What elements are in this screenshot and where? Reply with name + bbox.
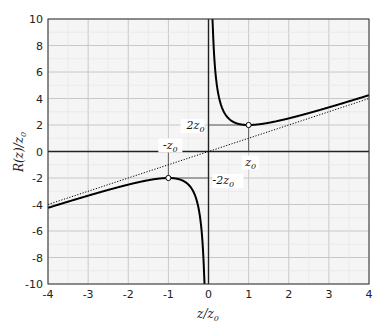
svg-text:-10: -10	[25, 278, 43, 291]
svg-text:6: 6	[36, 66, 43, 79]
svg-text:0: 0	[205, 288, 212, 301]
x-axis-label: z/z0	[196, 307, 219, 323]
svg-text:-4: -4	[43, 288, 54, 301]
svg-text:2: 2	[285, 288, 292, 301]
y-axis-label: R(z)/z0	[12, 132, 28, 173]
svg-text:2: 2	[36, 119, 43, 132]
svg-text:1: 1	[245, 288, 252, 301]
svg-text:4: 4	[366, 288, 373, 301]
svg-text:4: 4	[36, 93, 43, 106]
svg-text:10: 10	[29, 13, 43, 26]
chart: -10-8-6-4-20246810-4-3-2-101234 2z0z0-z0…	[0, 0, 384, 334]
svg-text:-8: -8	[32, 252, 43, 265]
svg-text:-2: -2	[32, 172, 43, 185]
svg-text:3: 3	[325, 288, 332, 301]
svg-text:-6: -6	[32, 225, 43, 238]
svg-text:-1: -1	[163, 288, 174, 301]
svg-text:-3: -3	[83, 288, 94, 301]
svg-text:-4: -4	[32, 199, 43, 212]
svg-text:0: 0	[36, 146, 43, 159]
svg-text:8: 8	[36, 40, 43, 53]
svg-text:-2: -2	[123, 288, 134, 301]
